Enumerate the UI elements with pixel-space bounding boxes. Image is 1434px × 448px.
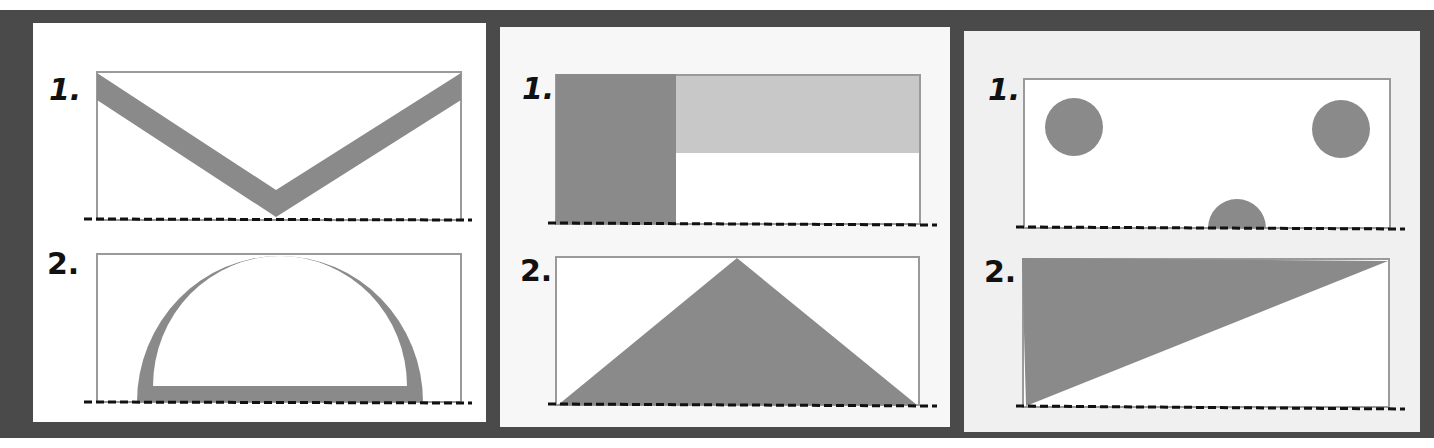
figure-arch-band [33, 23, 486, 422]
figure-diagonal [964, 31, 1420, 432]
panel-1: 1. 2. [33, 23, 486, 422]
figure-triangle [500, 27, 950, 427]
panel-2: 1. 2. [500, 27, 950, 427]
top-margin [0, 0, 1424, 10]
panel-3: 1. 2. [964, 31, 1420, 432]
